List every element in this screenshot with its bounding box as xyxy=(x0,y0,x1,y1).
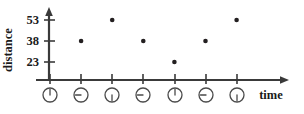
x-tick-icon-1 xyxy=(43,88,57,102)
y-axis xyxy=(45,7,53,80)
y-tick-label-53: 53 xyxy=(27,13,40,27)
y-tick-label-23: 23 xyxy=(27,55,40,69)
x-tick-icon-3 xyxy=(105,88,119,102)
x-tick-icon-5 xyxy=(168,88,182,102)
data-point xyxy=(203,39,208,44)
data-point xyxy=(110,18,115,23)
x-axis-title: time xyxy=(259,88,283,102)
data-point xyxy=(234,18,239,23)
y-tick-label-38: 38 xyxy=(27,34,40,48)
x-tick-icon-6 xyxy=(199,88,213,102)
data-points-layer xyxy=(79,18,239,65)
x-axis xyxy=(36,76,289,84)
x-tick-icon-2 xyxy=(74,88,88,102)
data-point xyxy=(79,39,84,44)
y-axis-arrowhead xyxy=(45,7,53,16)
scatter-plot-figure: 53 38 23 distance time xyxy=(0,0,304,114)
y-axis-title: distance xyxy=(1,28,15,72)
plot-canvas: 53 38 23 distance time xyxy=(0,0,304,114)
x-axis-arrowhead xyxy=(280,76,289,84)
x-tick-icon-4 xyxy=(136,88,150,102)
data-point xyxy=(172,60,177,65)
data-point xyxy=(141,39,146,44)
x-tick-icon-7 xyxy=(230,88,244,102)
